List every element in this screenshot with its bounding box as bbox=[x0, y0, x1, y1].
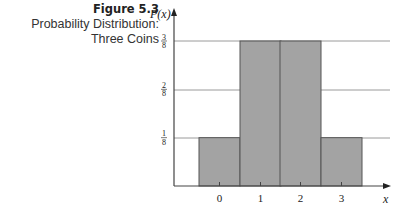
y-tick-labels: 182838 bbox=[161, 33, 167, 147]
x-axis-label: x bbox=[382, 192, 389, 206]
bar-x-1 bbox=[240, 41, 281, 186]
probability-histogram: P(x) x 182838 0123 bbox=[0, 0, 409, 215]
y-tick-label: 38 bbox=[161, 33, 167, 51]
bar-x-3 bbox=[321, 138, 362, 186]
y-axis-arrow-icon bbox=[171, 8, 177, 16]
svg-text:8: 8 bbox=[162, 138, 166, 147]
bars bbox=[199, 41, 362, 186]
y-tick-label: 18 bbox=[161, 129, 167, 147]
x-tick-label: 3 bbox=[339, 192, 345, 204]
x-tick-labels: 0123 bbox=[217, 192, 345, 204]
x-tick-label: 2 bbox=[298, 192, 304, 204]
bar-x-2 bbox=[280, 41, 321, 186]
svg-text:8: 8 bbox=[162, 41, 166, 50]
svg-text:8: 8 bbox=[162, 89, 166, 98]
y-tick-label: 28 bbox=[161, 81, 167, 99]
x-tick-label: 1 bbox=[258, 192, 264, 204]
x-axis-arrow-icon bbox=[383, 183, 391, 189]
y-axis-label: P(x) bbox=[149, 7, 171, 21]
bar-x-0 bbox=[199, 138, 240, 186]
x-tick-label: 0 bbox=[217, 192, 223, 204]
